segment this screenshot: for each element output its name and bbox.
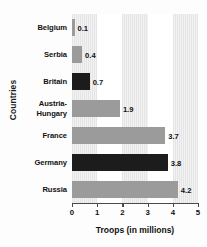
y-axis-tick-label: Germany bbox=[14, 149, 70, 176]
x-axis-line bbox=[72, 203, 198, 204]
bar-france bbox=[72, 127, 165, 145]
category-label-belgium: Belgium bbox=[37, 23, 67, 33]
y-axis-tick-label: Russia bbox=[14, 176, 70, 203]
category-label-serbia: Serbia bbox=[44, 50, 67, 60]
bar-value-belgium: 0.1 bbox=[78, 23, 89, 32]
x-axis-tick-label: 3 bbox=[145, 208, 149, 217]
bar-row: 0.1 bbox=[72, 14, 198, 41]
y-axis-tick-label: Britain bbox=[14, 68, 70, 95]
bar-belgium bbox=[72, 19, 75, 37]
y-axis-tick-label: Austria-Hungary bbox=[14, 95, 70, 122]
category-label-austria-hungary: Austria-Hungary bbox=[14, 99, 67, 118]
x-axis-tick-label: 4 bbox=[171, 208, 175, 217]
y-axis-tick-labels: Belgium Serbia Britain Austria-Hungary F… bbox=[14, 14, 70, 203]
bar-germany bbox=[72, 154, 168, 172]
x-axis-tick bbox=[122, 203, 123, 207]
y-axis-tick-label: Belgium bbox=[14, 14, 70, 41]
x-axis-tick-label: 1 bbox=[95, 208, 99, 217]
category-label-britain: Britain bbox=[43, 77, 67, 87]
x-axis-tick-label: 0 bbox=[70, 208, 74, 217]
category-label-germany: Germany bbox=[34, 158, 67, 168]
chart-figure: Countries Belgium Serbia Britain Austria… bbox=[0, 0, 207, 247]
plot-area: 0.1 0.4 0.7 1.9 3.7 3.8 4.2 bbox=[72, 14, 198, 203]
x-axis-tick-label: 5 bbox=[196, 208, 200, 217]
y-axis-tick-label: France bbox=[14, 122, 70, 149]
x-axis-tick-label: 2 bbox=[120, 208, 124, 217]
x-axis-tick bbox=[198, 203, 199, 207]
x-axis-tick bbox=[97, 203, 98, 207]
bar-value-serbia: 0.4 bbox=[85, 50, 96, 59]
x-axis-tick bbox=[148, 203, 149, 207]
bar-row: 3.7 bbox=[72, 122, 198, 149]
y-axis-tick-label: Serbia bbox=[14, 41, 70, 68]
bar-row: 1.9 bbox=[72, 95, 198, 122]
bar-row: 0.4 bbox=[72, 41, 198, 68]
bar-value-germany: 3.8 bbox=[171, 158, 182, 167]
bar-row: 0.7 bbox=[72, 68, 198, 95]
bar-rows: 0.1 0.4 0.7 1.9 3.7 3.8 4.2 bbox=[72, 14, 198, 203]
bar-britain bbox=[72, 73, 90, 91]
bar-row: 3.8 bbox=[72, 149, 198, 176]
bar-value-russia: 4.2 bbox=[181, 185, 192, 194]
bar-value-france: 3.7 bbox=[168, 131, 179, 140]
category-label-france: France bbox=[42, 131, 67, 141]
bar-russia bbox=[72, 181, 178, 199]
bar-value-britain: 0.7 bbox=[93, 77, 104, 86]
bar-serbia bbox=[72, 46, 82, 64]
x-axis-tick bbox=[173, 203, 174, 207]
bar-row: 4.2 bbox=[72, 176, 198, 203]
x-axis-title: Troops (in millions) bbox=[72, 225, 198, 235]
category-label-russia: Russia bbox=[42, 185, 67, 195]
x-axis-tick bbox=[72, 203, 73, 207]
bar-value-austria-hungary: 1.9 bbox=[123, 104, 134, 113]
bar-austria-hungary bbox=[72, 100, 120, 118]
